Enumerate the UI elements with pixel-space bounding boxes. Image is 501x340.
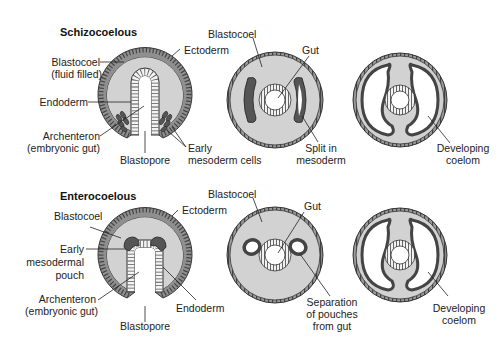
label-mesoderm: mesoderm bbox=[290, 154, 352, 166]
schizo-gastrula bbox=[88, 48, 192, 153]
coelom-formation-diagram: Schizocoelous Blastocoel (fluid filled) … bbox=[0, 0, 501, 340]
label-split-in: Split in bbox=[296, 142, 346, 154]
label-embryonic-gut: (embryonic gut) bbox=[14, 142, 100, 154]
label-blastocoel: Blastocoel bbox=[40, 56, 100, 68]
label-endoderm-2: Endoderm bbox=[176, 302, 224, 314]
label-blastocoel-3: Blastocoel bbox=[54, 210, 102, 222]
schizo-stage3 bbox=[353, 53, 450, 147]
label-separation: Separation bbox=[302, 296, 362, 308]
label-mesoderm-cells: mesoderm cells bbox=[188, 154, 262, 166]
diagram-graphics bbox=[0, 0, 501, 340]
label-ectoderm: Ectoderm bbox=[184, 44, 229, 56]
label-coelom-2: coelom bbox=[426, 314, 492, 326]
label-blastocoel-2: Blastocoel bbox=[208, 28, 256, 40]
label-blastopore-2: Blastopore bbox=[120, 320, 170, 332]
label-of-pouches: of pouches bbox=[302, 308, 362, 320]
label-gut: Gut bbox=[302, 44, 319, 56]
label-mesodermal: mesodermal bbox=[14, 256, 84, 268]
label-from-gut: from gut bbox=[302, 320, 362, 332]
label-endoderm: Endoderm bbox=[28, 96, 88, 108]
label-blastocoel-4: Blastocoel bbox=[208, 188, 256, 200]
label-fluid-filled: (fluid filled) bbox=[30, 68, 102, 80]
label-developing: Developing bbox=[430, 142, 496, 154]
label-early-2: Early bbox=[24, 243, 84, 255]
label-blastopore: Blastopore bbox=[120, 154, 170, 166]
enterocoelous-title: Enterocoelous bbox=[60, 190, 136, 202]
schizocoelous-title: Schizocoelous bbox=[60, 26, 137, 38]
label-early: Early bbox=[188, 142, 212, 154]
label-gut-2: Gut bbox=[304, 200, 321, 212]
label-coelom: coelom bbox=[430, 154, 496, 166]
label-embryonic-gut-2: (embryonic gut) bbox=[10, 305, 98, 317]
label-archenteron: Archenteron bbox=[20, 130, 100, 142]
label-pouch: pouch bbox=[24, 269, 84, 281]
label-archenteron-2: Archenteron bbox=[16, 293, 96, 305]
entero-stage3 bbox=[353, 208, 448, 302]
label-developing-2: Developing bbox=[426, 302, 492, 314]
label-ectoderm-2: Ectoderm bbox=[182, 204, 227, 216]
entero-stage2 bbox=[227, 198, 330, 303]
